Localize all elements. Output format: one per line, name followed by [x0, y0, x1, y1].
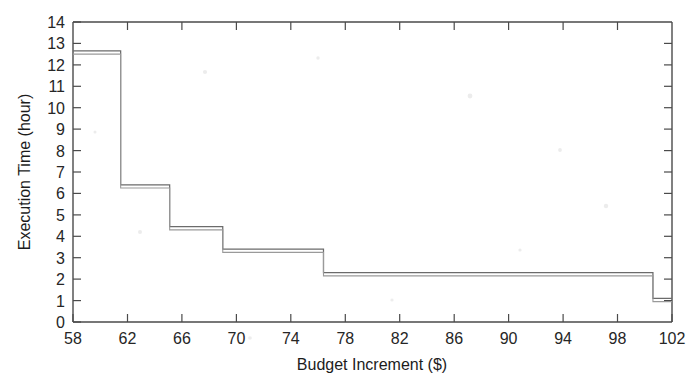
x-tick-label: 70 [228, 330, 246, 347]
scan-noise [94, 56, 609, 340]
x-tick-label: 102 [659, 330, 686, 347]
y-tick-label: 0 [56, 314, 65, 331]
y-tick-label: 7 [56, 164, 65, 181]
x-tick-label: 82 [391, 330, 409, 347]
y-tick-label: 1 [56, 293, 65, 310]
y-tick-label: 8 [56, 143, 65, 160]
x-axis-ticks-top [128, 22, 618, 30]
y-tick-label: 13 [47, 35, 65, 52]
x-tick-label: 58 [64, 330, 82, 347]
y-axis-title: Execution Time (hour) [16, 94, 33, 251]
x-tick-label: 74 [282, 330, 300, 347]
y-tick-label: 9 [56, 121, 65, 138]
y-tick-label: 6 [56, 185, 65, 202]
series-execution-time [73, 51, 672, 302]
y-tick-label: 10 [47, 100, 65, 117]
step-chart: 0 1 2 3 4 5 6 7 8 9 10 11 12 13 14 58 62… [0, 0, 698, 381]
y-tick-label: 11 [48, 78, 65, 95]
y-axis-ticks-right [664, 43, 672, 300]
x-tick-label: 98 [609, 330, 627, 347]
x-tick-label: 86 [445, 330, 463, 347]
y-tick-label: 3 [56, 250, 65, 267]
y-axis-ticks [73, 22, 81, 322]
y-tick-label: 12 [47, 57, 65, 74]
x-tick-label: 90 [500, 330, 518, 347]
y-tick-label: 5 [56, 207, 65, 224]
x-axis-title: Budget Increment ($) [297, 356, 447, 373]
plot-frame [73, 22, 672, 322]
y-tick-labels: 0 1 2 3 4 5 6 7 8 9 10 11 12 13 14 [47, 14, 65, 331]
x-tick-label: 94 [554, 330, 572, 347]
y-tick-label: 4 [56, 228, 65, 245]
x-tick-labels: 58 62 66 70 74 78 82 86 90 94 98 102 [64, 330, 685, 347]
x-tick-label: 78 [336, 330, 354, 347]
y-tick-label: 14 [47, 14, 65, 31]
figure-canvas: 0 1 2 3 4 5 6 7 8 9 10 11 12 13 14 58 62… [0, 0, 698, 381]
x-tick-label: 62 [119, 330, 137, 347]
x-tick-label: 66 [173, 330, 191, 347]
x-axis-ticks [73, 314, 672, 322]
y-tick-label: 2 [56, 271, 65, 288]
